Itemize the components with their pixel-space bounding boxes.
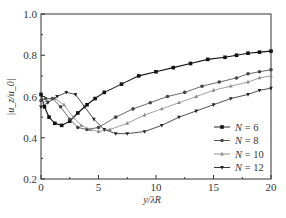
y-tick-label: 0.2 <box>23 173 37 185</box>
data-point <box>47 115 51 119</box>
legend-label: N = 6 <box>234 122 258 133</box>
data-point <box>102 91 106 95</box>
data-point <box>269 49 273 53</box>
data-point <box>246 72 250 76</box>
data-point <box>200 84 204 88</box>
y-tick-label: 0.6 <box>23 91 37 103</box>
data-point <box>246 51 250 55</box>
data-point <box>60 124 64 128</box>
data-point <box>68 117 72 121</box>
data-point <box>148 101 152 105</box>
x-tick-label: 10 <box>151 181 163 193</box>
data-point <box>53 122 57 126</box>
data-point <box>235 76 239 80</box>
y-tick-label: 1.0 <box>23 8 37 20</box>
data-point <box>166 95 170 99</box>
legend-item: N = 6 <box>214 122 258 133</box>
y-tick-label: 0.4 <box>23 132 37 144</box>
data-point <box>206 58 210 62</box>
data-point <box>189 62 193 66</box>
data-point <box>217 80 221 84</box>
data-point <box>39 99 43 103</box>
legend-label: N = 10 <box>234 149 264 160</box>
x-tick-label: 20 <box>266 181 278 193</box>
data-point <box>269 68 273 72</box>
data-point <box>258 70 262 74</box>
legend-item: N = 12 <box>214 162 264 173</box>
legend-label: N = 8 <box>234 135 258 146</box>
data-point <box>39 105 43 109</box>
data-point <box>183 91 187 95</box>
legend: N = 6N = 8N = 10N = 12 <box>214 122 264 174</box>
x-tick-label: 0 <box>38 181 44 193</box>
data-point <box>131 107 135 111</box>
y-axis-title: |u_z/u_0| <box>5 78 16 115</box>
data-point <box>235 53 239 57</box>
x-axis-title: y/λR <box>142 194 161 205</box>
data-point <box>269 74 273 78</box>
data-point <box>223 56 227 60</box>
data-point <box>171 66 175 70</box>
legend-item: N = 8 <box>214 135 258 146</box>
data-point <box>120 82 124 86</box>
legend-label: N = 12 <box>234 162 264 173</box>
data-point <box>97 126 101 130</box>
data-point <box>154 70 158 74</box>
data-point <box>76 111 80 115</box>
legend-marker <box>220 139 224 143</box>
chart: 05101520 0.20.40.60.81.0 N = 6N = 8N = 1… <box>0 0 286 218</box>
legend-marker <box>220 125 224 129</box>
data-point <box>137 74 141 78</box>
x-tick-label: 5 <box>96 181 102 193</box>
data-point <box>59 105 63 109</box>
series-line <box>41 51 271 125</box>
data-point <box>258 50 262 54</box>
y-tick-label: 0.8 <box>23 49 37 61</box>
legend-item: N = 10 <box>214 149 264 160</box>
data-point <box>93 97 97 101</box>
series-n6 <box>39 49 273 127</box>
data-point <box>76 126 80 130</box>
data-point <box>39 93 43 97</box>
data-point <box>114 115 118 119</box>
x-axis: 05101520 <box>38 175 277 193</box>
x-tick-label: 15 <box>208 181 220 193</box>
